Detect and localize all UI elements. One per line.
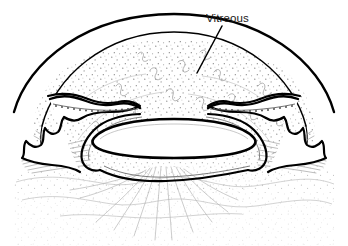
figure-root: Vitreous <box>0 0 348 246</box>
posterior-stipple-region <box>14 163 334 246</box>
vitreous-label: Vitreous <box>206 12 249 24</box>
lens <box>93 119 256 158</box>
eye-cross-section-diagram: Vitreous <box>0 0 348 246</box>
